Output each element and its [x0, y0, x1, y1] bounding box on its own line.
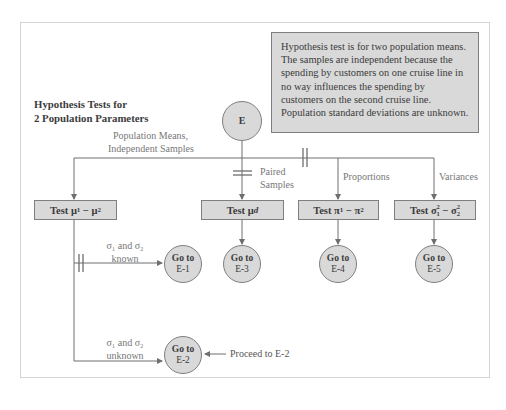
test-prefix: Test [50, 205, 68, 216]
branch-label-paired-line2: Samples [260, 179, 294, 192]
branch-label-means-line1: Population Means, [108, 130, 193, 143]
start-node-label: E [239, 115, 246, 127]
goto-label: Go to [327, 253, 349, 265]
branch-label-paired-line1: Paired [260, 166, 294, 179]
test-prefix: Test [227, 205, 245, 216]
note-box: Hypothesis test is for two population me… [271, 32, 479, 133]
goto-label: Go to [172, 253, 194, 265]
condition-known-line2: known [95, 253, 155, 266]
goto-e2: Go to E-2 [164, 336, 202, 374]
goto-e4: Go to E-4 [319, 245, 357, 283]
subscript: 2 [360, 206, 364, 214]
operator: − [440, 205, 451, 216]
goto-e1: Go to E-1 [164, 245, 202, 283]
branch-label-variances: Variances [439, 171, 478, 184]
condition-known-line1: σ₁ and σ₂ [95, 240, 155, 253]
subscript: 2 [457, 210, 460, 217]
branch-label-paired: Paired Samples [260, 166, 294, 191]
goto-target: E-2 [176, 355, 190, 367]
condition-unknown: σ₁ and σ₂ unknown [95, 337, 155, 362]
condition-unknown-line1: σ₁ and σ₂ [95, 337, 155, 350]
superscript: 2 [457, 203, 460, 210]
subscript: 2 [98, 206, 102, 214]
diagram-title: Hypothesis Tests for 2 Population Parame… [34, 97, 149, 125]
test-prefix: Test [313, 205, 331, 216]
operator: − [343, 205, 354, 216]
goto-target: E-1 [176, 264, 190, 276]
title-line-2: 2 Population Parameters [34, 111, 149, 125]
title-line-1: Hypothesis Tests for [34, 97, 149, 111]
test-box-variances: Test σ21 − σ22 [394, 200, 476, 220]
goto-target: E-4 [331, 264, 345, 276]
condition-unknown-line2: unknown [95, 350, 155, 363]
test-prefix: Test [410, 205, 428, 216]
test-box-diff-means: Test μ1 − μ2 [34, 200, 117, 220]
test-box-proportions: Test π1 − π2 [298, 200, 379, 220]
goto-e5: Go to E-5 [415, 245, 453, 283]
branch-label-means-line2: Independent Samples [108, 143, 193, 156]
operator: − [80, 205, 91, 216]
goto-target: E-3 [235, 264, 249, 276]
subscript-d: d [254, 205, 259, 215]
branch-label-proportions: Proportions [343, 171, 390, 184]
proceed-label: Proceed to E-2 [230, 348, 289, 359]
goto-e3: Go to E-3 [223, 245, 261, 283]
goto-target: E-5 [427, 264, 441, 276]
test-box-paired: Test μd [201, 200, 284, 220]
goto-label: Go to [231, 253, 253, 265]
goto-label: Go to [423, 253, 445, 265]
start-node-e: E [222, 101, 262, 141]
goto-label: Go to [172, 344, 194, 356]
branch-label-means-independent: Population Means, Independent Samples [108, 130, 193, 155]
condition-known: σ₁ and σ₂ known [95, 240, 155, 265]
